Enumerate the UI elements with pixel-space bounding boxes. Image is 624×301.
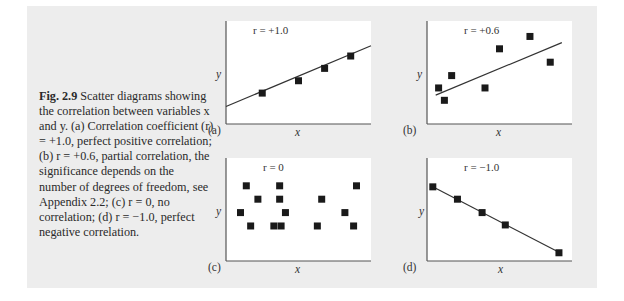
data-point [555, 249, 562, 256]
data-point [350, 222, 357, 229]
data-point [295, 77, 302, 84]
figure-label: Fig. 2.9 [39, 89, 77, 103]
data-point [314, 222, 321, 229]
x-axis-label-c: x [295, 263, 300, 275]
x-axis-label-d: x [498, 263, 503, 275]
y-axis-label-b: y [417, 68, 422, 80]
caption-text: Scatter diagrams showing the correlation… [39, 89, 213, 239]
scatter-panel-d: r = −1.0 y x (d) [401, 152, 581, 282]
r-annotation-b: r = +0.6 [464, 24, 499, 36]
data-point [282, 209, 289, 216]
r-annotation-d: r = −1.0 [464, 161, 499, 173]
data-point [254, 196, 261, 203]
plot-area [226, 158, 371, 261]
scatter-panel-a: r = +1.0 y x (a) [200, 15, 380, 145]
data-point [276, 196, 283, 203]
data-point [448, 72, 455, 79]
r-annotation-a: r = +1.0 [253, 24, 288, 36]
data-point [321, 65, 328, 72]
data-point [353, 182, 360, 189]
panel-label-a: (a) [208, 124, 221, 136]
data-point [454, 196, 461, 203]
data-point [502, 221, 509, 228]
plot-c [200, 152, 380, 282]
panel-label-b: (b) [403, 124, 416, 136]
data-point [318, 196, 325, 203]
scatter-panel-b: r = +0.6 y x (b) [401, 15, 581, 145]
data-point [441, 97, 448, 104]
y-axis-label-d: y [419, 205, 424, 217]
data-point [276, 182, 283, 189]
panel-label-c: (c) [208, 261, 221, 273]
data-point [479, 209, 486, 216]
plot-area [427, 158, 572, 261]
data-point [278, 222, 285, 229]
data-point [243, 182, 250, 189]
data-point [270, 222, 277, 229]
y-axis-label-c: y [216, 205, 221, 217]
x-axis-label-b: x [496, 126, 501, 138]
figure-caption: Fig. 2.9 Scatter diagrams showing the co… [39, 89, 214, 240]
data-point [482, 84, 489, 91]
data-point [341, 209, 348, 216]
data-point [429, 183, 436, 190]
data-point [347, 53, 354, 60]
data-point [435, 84, 442, 91]
panel-label-d: (d) [403, 261, 416, 273]
data-point [526, 33, 533, 40]
scatter-panel-c: r = 0 y x (c) [200, 152, 380, 282]
r-annotation-c: r = 0 [263, 161, 284, 173]
data-point [547, 59, 554, 66]
plot-a [200, 15, 380, 145]
plot-area [226, 21, 371, 124]
y-axis-label-a: y [216, 68, 221, 80]
x-axis-label-a: x [295, 126, 300, 138]
data-point [247, 222, 254, 229]
data-point [259, 90, 266, 97]
data-point [496, 45, 503, 52]
data-point [237, 209, 244, 216]
